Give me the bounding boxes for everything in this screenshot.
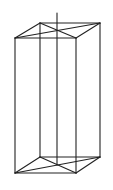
prism-wireframe-diagram [0,0,113,190]
